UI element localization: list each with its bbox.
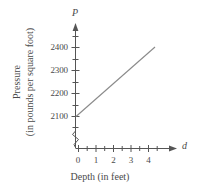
- chart-figure: P d 2400 2300 2200 2100 0 1 2 3 4 Pressu…: [0, 0, 200, 195]
- x-axis-arrow: [169, 146, 177, 152]
- y-axis-variable-label: P: [72, 8, 78, 18]
- x-axis-variable-label: d: [182, 141, 187, 151]
- y-axis-title: Pressure (in pounds per square foot): [10, 12, 38, 152]
- ytick-label-2300: 2300: [40, 66, 68, 75]
- x-axis-title: Depth (in feet): [0, 172, 200, 182]
- xtick-label-3: 3: [123, 156, 139, 165]
- y-axis-arrow: [73, 23, 79, 31]
- xtick-label-2: 2: [106, 156, 122, 165]
- xtick-label-1: 1: [88, 156, 104, 165]
- data-line-pressure: [76, 47, 155, 117]
- ytick-label-2200: 2200: [40, 89, 68, 98]
- ytick-label-2100: 2100: [40, 112, 68, 121]
- y-axis-title-line-1: Pressure: [10, 12, 23, 152]
- y-axis-title-line-2: (in pounds per square foot): [23, 12, 36, 152]
- xtick-label-4: 4: [141, 156, 157, 165]
- ytick-label-2400: 2400: [40, 43, 68, 52]
- xtick-label-0: 0: [70, 156, 86, 165]
